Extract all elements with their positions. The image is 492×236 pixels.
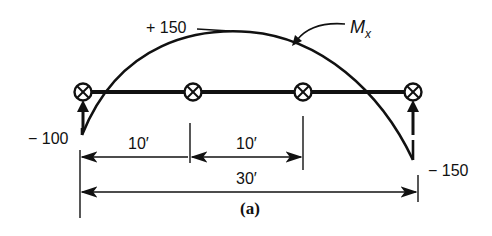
reaction-arrow-right-icon (407, 100, 419, 135)
support-b-icon (185, 84, 202, 101)
moment-label: Mx (350, 18, 371, 40)
figure-caption: (a) (240, 200, 260, 217)
peak-leader-line (197, 29, 230, 31)
support-d-icon (405, 84, 422, 101)
left-value-label: − 100 (28, 131, 68, 147)
support-c-icon (295, 84, 312, 101)
moment-label-main: M (350, 17, 365, 37)
moment-label-leader-icon (292, 24, 345, 46)
total-dimension-label: 30′ (236, 171, 257, 187)
support-a-icon (75, 84, 92, 101)
span1-dimension-label: 10′ (128, 136, 149, 152)
right-value-label: − 150 (428, 163, 468, 179)
peak-value-label: + 150 (146, 20, 186, 36)
span2-dimension-label: 10′ (236, 136, 257, 152)
moment-label-subscript: x (365, 27, 371, 41)
